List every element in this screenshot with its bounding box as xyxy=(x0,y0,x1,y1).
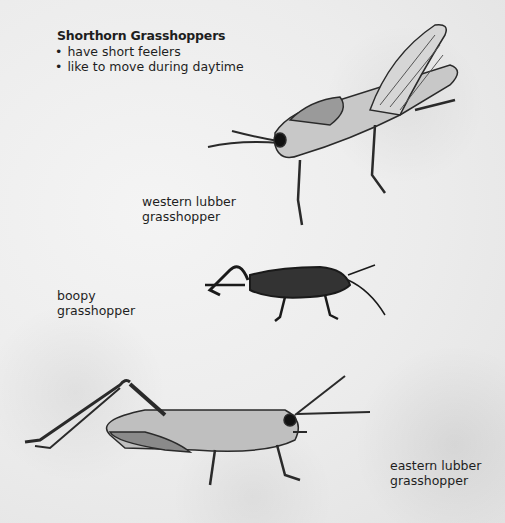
label-line: eastern lubber xyxy=(390,458,481,473)
label-line: grasshopper xyxy=(57,303,135,318)
eastern-lubber-label: eastern lubber grasshopper xyxy=(390,458,481,488)
western-lubber-label: western lubber grasshopper xyxy=(142,194,236,224)
label-line: grasshopper xyxy=(142,209,236,224)
label-line: western lubber xyxy=(142,194,236,209)
boopy-label: boopy grasshopper xyxy=(57,288,135,318)
label-line: grasshopper xyxy=(390,473,481,488)
eastern-lubber-grasshopper-illustration xyxy=(15,370,385,490)
western-lubber-grasshopper-illustration xyxy=(200,15,480,245)
boopy-grasshopper-illustration xyxy=(200,255,390,330)
label-line: boopy xyxy=(57,288,135,303)
